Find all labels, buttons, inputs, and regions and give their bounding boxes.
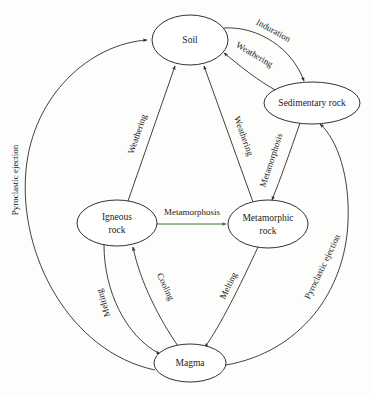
edge-label-sedimentary-to-soil: Weathering (234, 40, 275, 70)
edge-label-metamorphic-to-magma: Melting (218, 270, 240, 300)
node-metamorphic-rock-label-line1: Metamorphic (242, 213, 293, 223)
rock-cycle-diagram: Soil Sedimentary rock Igneous rock Metam… (0, 0, 373, 397)
edge-label-igneous-to-soil: Weathering (126, 112, 149, 155)
node-magma-label: Magma (175, 358, 205, 368)
node-igneous-rock-shape[interactable] (77, 200, 157, 246)
node-igneous-rock-label-line1: Igneous (102, 212, 132, 222)
edge-label-induration: Induration (255, 17, 293, 44)
edge-label-magma-to-sedimentary: Pyroclastic ejection (302, 232, 342, 300)
node-sedimentary-rock[interactable]: Sedimentary rock (264, 82, 360, 124)
edge-label-igneous-to-magma: Melting (94, 287, 112, 318)
node-sedimentary-rock-label: Sedimentary rock (278, 98, 346, 108)
edge-label-sedimentary-to-metamorphic: Metamorphosis (258, 131, 285, 188)
edge-metamorphic-to-magma (205, 247, 258, 347)
node-soil-label: Soil (182, 35, 198, 45)
node-soil[interactable]: Soil (152, 15, 228, 65)
node-igneous-rock-label-line2: rock (109, 225, 126, 235)
diagram-canvas: Soil Sedimentary rock Igneous rock Metam… (0, 0, 373, 397)
node-igneous-rock[interactable]: Igneous rock (77, 200, 157, 246)
node-magma[interactable]: Magma (154, 344, 226, 382)
edge-label-magma-to-igneous: Cooling (155, 271, 177, 302)
edge-label-igneous-to-metamorphic: Metamorphosis (164, 207, 220, 217)
edge-label-metamorphic-to-soil: Weathering (232, 115, 256, 158)
edge-label-magma-to-soil: Pyroclastic ejection (10, 144, 20, 215)
node-metamorphic-rock-shape[interactable] (228, 200, 308, 248)
node-metamorphic-rock-label-line2: rock (260, 226, 277, 236)
node-metamorphic-rock[interactable]: Metamorphic rock (228, 200, 308, 248)
